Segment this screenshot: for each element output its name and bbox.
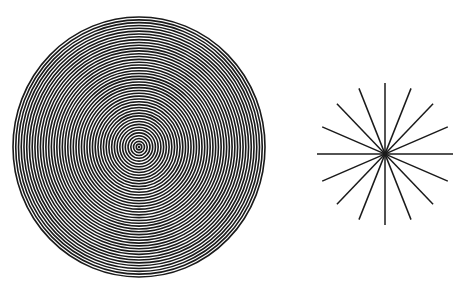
center-dot [138, 146, 140, 148]
figure-canvas [0, 0, 465, 293]
concentric-circles-pattern [13, 17, 265, 277]
star-hub [383, 152, 387, 156]
illusion-figure [0, 0, 465, 293]
radial-lines-star [317, 83, 453, 225]
